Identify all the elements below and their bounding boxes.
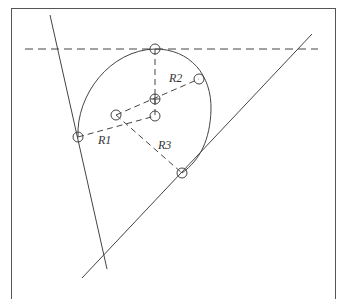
r2-radius-line (116, 79, 199, 115)
label-r1: R1 (98, 134, 111, 146)
right-tangent-line (82, 34, 312, 278)
label-r2: R2 (169, 72, 182, 84)
tangent-arc (78, 49, 211, 173)
r3-radius-line (116, 115, 182, 173)
r1-radius-line (78, 116, 155, 137)
label-r3: R3 (158, 139, 171, 151)
